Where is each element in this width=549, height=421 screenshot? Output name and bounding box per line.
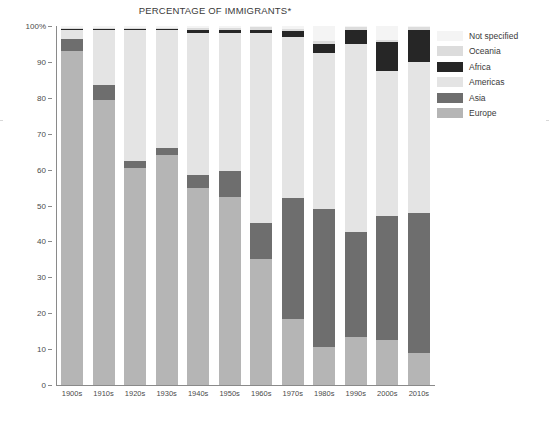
- bar-segment-americas[interactable]: [282, 37, 304, 199]
- bar-segment-europe[interactable]: [219, 197, 241, 385]
- bar-segment-asia[interactable]: [313, 209, 335, 347]
- bar-segment-africa[interactable]: [219, 30, 241, 34]
- bar-segment-asia[interactable]: [282, 198, 304, 318]
- bar-segment-americas[interactable]: [219, 33, 241, 171]
- bar-segment-oceania[interactable]: [93, 28, 115, 29]
- bar-segment-not-specified[interactable]: [93, 26, 115, 28]
- bar-segment-europe[interactable]: [408, 353, 430, 385]
- bar-segment-oceania[interactable]: [156, 28, 178, 29]
- bar-segment-asia[interactable]: [408, 213, 430, 353]
- bar-segment-not-specified[interactable]: [345, 26, 367, 27]
- bar-column-1920s[interactable]: [124, 26, 146, 385]
- bar-segment-africa[interactable]: [124, 29, 146, 30]
- chart-container: PERCENTAGE OF IMMIGRANTS* 01020304050607…: [0, 0, 549, 421]
- bar-segment-not-specified[interactable]: [219, 26, 241, 28]
- x-axis-tick-label: 2010s: [408, 389, 430, 398]
- bar-segment-europe[interactable]: [376, 340, 398, 385]
- bar-segment-asia[interactable]: [219, 171, 241, 196]
- bar-segment-not-specified[interactable]: [376, 26, 398, 40]
- bar-segment-americas[interactable]: [93, 30, 115, 86]
- bar-column-1940s[interactable]: [187, 26, 209, 385]
- bar-segment-not-specified[interactable]: [156, 26, 178, 28]
- bar-segment-africa[interactable]: [408, 30, 430, 62]
- bar-stack: [376, 26, 398, 385]
- bar-segment-not-specified[interactable]: [61, 26, 83, 28]
- bar-segment-oceania[interactable]: [219, 28, 241, 30]
- bar-segment-oceania[interactable]: [250, 27, 272, 29]
- legend-item-oceania[interactable]: Oceania: [437, 44, 545, 60]
- bar-segment-europe[interactable]: [250, 259, 272, 385]
- legend-item-asia[interactable]: Asia: [437, 90, 545, 106]
- bar-segment-africa[interactable]: [313, 44, 335, 53]
- bar-segment-not-specified[interactable]: [282, 26, 304, 29]
- bar-column-1900s[interactable]: [61, 26, 83, 385]
- legend-item-europe[interactable]: Europe: [437, 106, 545, 122]
- bar-column-1980s[interactable]: [313, 26, 335, 385]
- bar-segment-oceania[interactable]: [61, 28, 83, 29]
- legend-item-not-specified[interactable]: Not specified: [437, 28, 545, 44]
- bar-segment-asia[interactable]: [345, 232, 367, 336]
- bar-stack: [408, 26, 430, 385]
- bar-segment-americas[interactable]: [156, 30, 178, 148]
- bar-segment-oceania[interactable]: [282, 29, 304, 32]
- legend-label: Asia: [469, 93, 486, 103]
- bar-segment-not-specified[interactable]: [187, 26, 209, 28]
- bar-column-1990s[interactable]: [345, 26, 367, 385]
- bar-segment-asia[interactable]: [93, 85, 115, 99]
- bar-segment-americas[interactable]: [313, 53, 335, 209]
- bar-segment-asia[interactable]: [187, 175, 209, 188]
- bar-segment-africa[interactable]: [156, 29, 178, 30]
- bar-segment-europe[interactable]: [187, 188, 209, 385]
- bar-segment-asia[interactable]: [156, 148, 178, 155]
- bar-segment-asia[interactable]: [376, 216, 398, 340]
- bar-segment-europe[interactable]: [282, 319, 304, 385]
- legend-swatch: [437, 46, 463, 56]
- bar-column-1950s[interactable]: [219, 26, 241, 385]
- bar-segment-europe[interactable]: [124, 168, 146, 385]
- bar-segment-americas[interactable]: [61, 30, 83, 39]
- legend-item-africa[interactable]: Africa: [437, 59, 545, 75]
- bar-segment-europe[interactable]: [156, 155, 178, 385]
- bar-segment-americas[interactable]: [124, 30, 146, 161]
- chart-title: PERCENTAGE OF IMMIGRANTS*: [0, 5, 430, 16]
- bar-segment-not-specified[interactable]: [408, 26, 430, 27]
- bar-segment-africa[interactable]: [345, 30, 367, 44]
- bar-column-2000s[interactable]: [376, 26, 398, 385]
- x-axis-tick-label: 1930s: [156, 389, 178, 398]
- bar-segment-africa[interactable]: [250, 30, 272, 34]
- bar-column-1970s[interactable]: [282, 26, 304, 385]
- bar-segment-oceania[interactable]: [376, 40, 398, 42]
- bar-segment-oceania[interactable]: [124, 28, 146, 29]
- bar-segment-asia[interactable]: [61, 39, 83, 52]
- bar-segment-asia[interactable]: [124, 161, 146, 168]
- bar-segment-africa[interactable]: [376, 42, 398, 71]
- bar-segment-not-specified[interactable]: [250, 26, 272, 27]
- bar-column-1910s[interactable]: [93, 26, 115, 385]
- bar-segment-americas[interactable]: [345, 44, 367, 232]
- bar-segment-oceania[interactable]: [345, 27, 367, 29]
- bar-column-1960s[interactable]: [250, 26, 272, 385]
- bar-segment-oceania[interactable]: [187, 28, 209, 30]
- bar-segment-europe[interactable]: [345, 337, 367, 385]
- y-axis-tick-mark: [48, 206, 52, 207]
- bar-segment-americas[interactable]: [408, 62, 430, 213]
- bar-segment-europe[interactable]: [61, 51, 83, 385]
- bar-segment-africa[interactable]: [282, 31, 304, 36]
- bar-segment-not-specified[interactable]: [124, 26, 146, 28]
- bar-segment-asia[interactable]: [250, 223, 272, 259]
- bar-segment-americas[interactable]: [250, 33, 272, 223]
- bar-segment-americas[interactable]: [187, 33, 209, 175]
- bar-column-1930s[interactable]: [156, 26, 178, 385]
- bars-group: [57, 26, 434, 385]
- bar-stack: [345, 26, 367, 385]
- bar-segment-europe[interactable]: [93, 100, 115, 385]
- bar-segment-oceania[interactable]: [408, 27, 430, 29]
- legend-item-americas[interactable]: Americas: [437, 75, 545, 91]
- bar-column-2010s[interactable]: [408, 26, 430, 385]
- bar-segment-europe[interactable]: [313, 347, 335, 385]
- bar-segment-americas[interactable]: [376, 71, 398, 216]
- bar-segment-africa[interactable]: [187, 30, 209, 34]
- bar-segment-oceania[interactable]: [313, 41, 335, 44]
- y-axis-tick-mark: [48, 62, 52, 63]
- bar-segment-not-specified[interactable]: [313, 26, 335, 41]
